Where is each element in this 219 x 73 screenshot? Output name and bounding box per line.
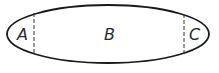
ellipse-diagram: A B C: [0, 0, 219, 73]
diagram-canvas: A B C: [0, 0, 219, 73]
region-label-a: A: [16, 25, 28, 44]
region-label-c: C: [189, 25, 201, 44]
region-label-b: B: [104, 25, 115, 44]
